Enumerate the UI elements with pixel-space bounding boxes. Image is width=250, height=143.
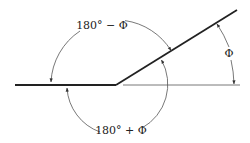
phi-arc-top [217, 24, 229, 47]
upper-arc-right [125, 21, 171, 51]
phi-arc-label: Φ [224, 47, 233, 60]
upper-arc-left [51, 31, 80, 82]
upper-arc-label: 180° − Φ [76, 19, 128, 32]
diagonal-thick-line [116, 10, 237, 85]
angle-diagram: 180° − Φ 180° + Φ Φ [0, 0, 250, 143]
phi-arc-bottom [231, 60, 234, 84]
lower-arc-label: 180° + Φ [95, 124, 147, 137]
lower-arc-right [142, 60, 168, 128]
